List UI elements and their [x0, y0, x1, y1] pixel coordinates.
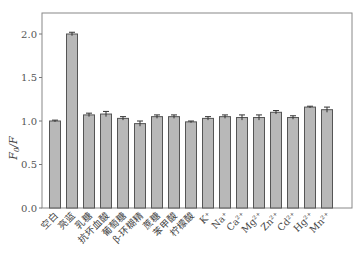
bar-chart: 0.00.51.01.52.0 空白亮蓝乳糖抗坏血酸葡萄糖β-环糊精蔗糖苯甲酸柠… — [0, 0, 363, 261]
y-tick-label: 1.0 — [21, 116, 37, 127]
bar — [220, 117, 231, 208]
bar — [101, 114, 112, 208]
bar — [186, 122, 197, 208]
bar — [254, 118, 265, 208]
y-axis-label: F0/F — [7, 136, 21, 161]
bar — [67, 34, 78, 208]
y-tick-label: 2.0 — [21, 29, 37, 40]
bar — [305, 107, 316, 208]
y-tick-label: 0.0 — [21, 203, 37, 214]
bar — [84, 115, 95, 208]
x-tick-label: 亮蓝 — [55, 210, 77, 232]
bar — [118, 118, 129, 208]
bar — [237, 118, 248, 208]
bar — [135, 124, 146, 208]
bar — [203, 118, 214, 208]
y-axis: 0.00.51.01.52.0 — [21, 29, 42, 214]
x-axis-labels: 空白亮蓝乳糖抗坏血酸葡萄糖β-环糊精蔗糖苯甲酸柠檬酸K⁺Na⁺Ca²⁺Mg²⁺Z… — [38, 210, 332, 246]
bar — [322, 110, 333, 208]
bars — [50, 32, 333, 208]
y-tick-label: 1.5 — [21, 72, 37, 83]
bar — [50, 121, 61, 208]
bar — [169, 117, 180, 208]
y-tick-label: 0.5 — [21, 159, 37, 170]
bar — [271, 112, 282, 208]
bar — [152, 117, 163, 208]
bar — [288, 118, 299, 208]
x-tick-label: 空白 — [38, 210, 60, 232]
